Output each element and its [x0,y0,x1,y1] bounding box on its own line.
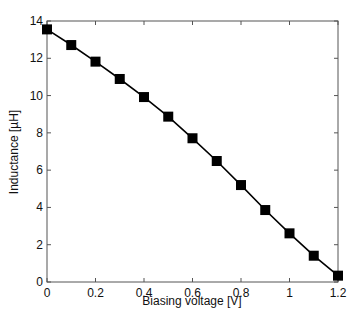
x-tick-label: 1.2 [330,286,347,300]
x-tick-label: 0.2 [87,286,104,300]
square-marker [91,57,101,67]
y-axis-label: Inductance [µH] [7,110,21,194]
square-marker [188,133,198,143]
square-marker [309,251,319,261]
square-marker [236,180,246,190]
x-axis-label: Biasing voltage [V] [142,294,241,308]
y-tick-label: 8 [36,126,43,140]
y-tick-label: 0 [36,275,43,289]
square-marker [285,228,295,238]
x-tick-label: 1 [286,286,293,300]
square-marker [139,92,149,102]
tick-labels: 00.20.40.60.811.202468101214 [30,14,347,300]
y-tick-label: 14 [30,14,44,28]
y-tick-label: 10 [30,89,44,103]
square-marker [42,24,52,34]
y-tick-label: 6 [36,163,43,177]
plot-canvas: 00.20.40.60.811.202468101214 Biasing vol… [0,0,362,325]
square-marker [66,40,76,50]
data-series [42,24,343,280]
inductance-vs-voltage-chart: 00.20.40.60.811.202468101214 Biasing vol… [0,0,362,325]
y-tick-label: 2 [36,238,43,252]
square-marker [333,271,343,281]
square-marker [260,205,270,215]
y-tick-label: 12 [30,51,44,65]
y-tick-label: 4 [36,200,43,214]
square-marker [163,112,173,122]
square-marker [115,74,125,84]
x-tick-label: 0 [44,286,51,300]
square-marker [212,156,222,166]
